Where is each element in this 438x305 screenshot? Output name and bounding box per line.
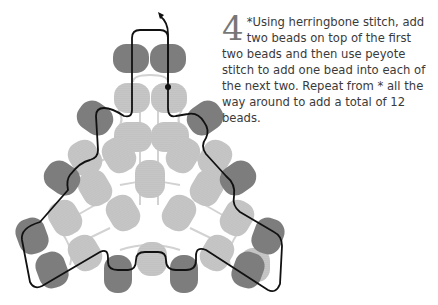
step-number: 4: [222, 14, 244, 44]
step-instruction: 4 *Using herringbone stitch, add two bea…: [222, 14, 434, 126]
step-text: *Using herringbone stitch, add two beads…: [222, 15, 425, 125]
thread-start-dot-icon: [165, 84, 171, 90]
